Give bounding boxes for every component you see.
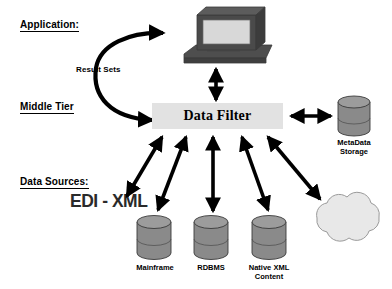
- internet-cloud: [317, 192, 380, 241]
- filter-mainframe-arrow: [158, 137, 186, 210]
- data-filter-label: Data Filter: [184, 108, 252, 124]
- filter-edixml-arrow: [127, 137, 162, 196]
- metadata-storage-cylinder: [338, 96, 370, 136]
- filter-nativexml-arrow: [242, 137, 268, 210]
- native-xml-cylinder: [252, 216, 286, 260]
- mainframe-cylinder: [137, 216, 171, 260]
- computer-icon: [184, 7, 272, 63]
- diagram-canvas: Data Filter Application: Middle Tier Dat…: [0, 0, 392, 289]
- diagram-shapes-layer: [0, 0, 392, 289]
- filter-internet-arrow: [268, 137, 320, 199]
- data-filter-box: Data Filter: [152, 103, 283, 129]
- rdbms-cylinder: [194, 216, 228, 260]
